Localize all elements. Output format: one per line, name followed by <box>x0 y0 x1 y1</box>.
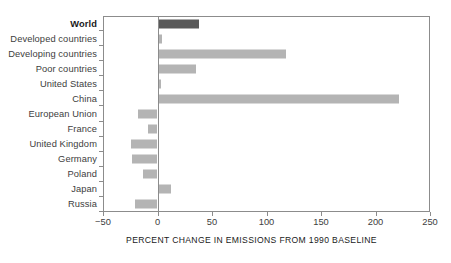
bar <box>158 49 287 58</box>
bar <box>158 185 171 194</box>
bar-row: China <box>0 91 451 106</box>
bar-row: Developing countries <box>0 46 451 61</box>
bar <box>138 109 158 118</box>
bar-row: France <box>0 122 451 137</box>
x-axis-tick-label: 250 <box>422 217 438 227</box>
bar-row: Developed countries <box>0 31 451 46</box>
x-axis-tick-mark <box>267 212 268 216</box>
x-axis-tick-mark <box>158 212 159 216</box>
bar <box>158 94 400 103</box>
x-axis-tick-label: 50 <box>207 217 217 227</box>
bar-rows: WorldDeveloped countriesDeveloping count… <box>0 16 451 212</box>
x-axis-tick-mark <box>430 212 431 216</box>
y-axis-label: European Union <box>28 109 97 119</box>
y-axis-label: Russia <box>68 199 97 209</box>
y-axis-label: China <box>72 94 97 104</box>
x-axis-tick-mark <box>212 212 213 216</box>
bar-row: World <box>0 16 451 31</box>
y-axis-label: Japan <box>71 184 97 194</box>
x-axis-tick-mark <box>321 212 322 216</box>
y-axis-label: Poor countries <box>36 64 97 74</box>
bar <box>132 155 157 164</box>
x-axis-tick-label: 0 <box>155 217 160 227</box>
x-axis-title-text: PERCENT CHANGE IN EMISSIONS FROM 1990 BA… <box>74 235 377 245</box>
y-axis-label: United Kingdom <box>29 139 97 149</box>
bar-row: Russia <box>0 197 451 212</box>
bar-row: United States <box>0 76 451 91</box>
y-axis-label: Poland <box>67 169 97 179</box>
x-axis-tick-mark <box>103 212 104 216</box>
x-axis-title: PERCENT CHANGE IN EMISSIONS FROM 1990 BA… <box>0 235 451 245</box>
bar <box>158 19 199 28</box>
bar-row: Germany <box>0 152 451 167</box>
zero-reference-line <box>158 16 159 212</box>
x-axis-tick-label: 100 <box>259 217 275 227</box>
y-axis-label: Germany <box>58 154 97 164</box>
x-axis-tick-mark <box>376 212 377 216</box>
bar <box>135 200 158 209</box>
emissions-change-bar-chart: WorldDeveloped countriesDeveloping count… <box>0 0 451 263</box>
x-axis-tick-label: 200 <box>368 217 384 227</box>
y-axis-label: Developed countries <box>10 34 97 44</box>
bar-row: Japan <box>0 182 451 197</box>
bar-row: United Kingdom <box>0 137 451 152</box>
bar <box>143 170 157 179</box>
y-axis-label: World <box>70 19 97 29</box>
y-axis-label: Developing countries <box>8 49 97 59</box>
bar-row: European Union <box>0 106 451 121</box>
bar <box>131 140 157 149</box>
bar <box>148 125 158 134</box>
y-axis-label: France <box>67 124 97 134</box>
y-axis-label: United States <box>40 79 97 89</box>
x-axis-tick-label: −50 <box>95 217 111 227</box>
bar-row: Poor countries <box>0 61 451 76</box>
x-axis-tick-label: 150 <box>313 217 329 227</box>
bar-row: Poland <box>0 167 451 182</box>
x-axis-ticks: −50050100150200250 <box>0 212 451 230</box>
bar <box>158 64 196 73</box>
